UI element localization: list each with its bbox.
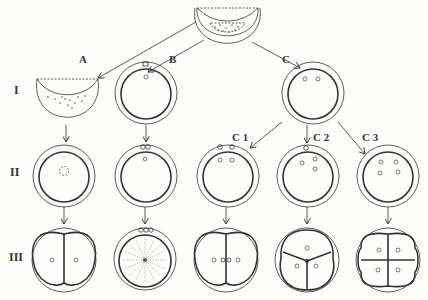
column-label-B: B (169, 53, 177, 65)
column-label-C1: C 1 (232, 131, 248, 143)
row-label-II: II (10, 165, 20, 179)
cell-A-III (32, 228, 96, 292)
cell-C3-III (356, 228, 420, 292)
cell-C1-II (197, 145, 259, 207)
embryo-development-diagram: I II III A B C C 1 C 2 C 3 (0, 0, 428, 300)
cell-C-I (282, 62, 344, 124)
granules-icon (214, 24, 239, 33)
cell-C3-II (357, 145, 419, 207)
diagram-stage: I II III A B C C 1 C 2 C 3 (0, 0, 428, 300)
row-label-III: III (9, 250, 23, 264)
column-label-C3: C 3 (362, 131, 379, 143)
cell-A-I (37, 79, 99, 117)
arrow-C-C1 (250, 122, 282, 148)
cell-C2-II (277, 145, 339, 207)
column-label-C: C (282, 53, 290, 65)
cell-A-II (33, 145, 95, 207)
column-label-C2: C 2 (313, 131, 330, 143)
cell-B-II (115, 145, 177, 207)
row-label-I: I (14, 83, 19, 97)
cell-C1-III (194, 228, 258, 292)
arrow-C-C3 (338, 122, 365, 154)
cell-B-I (115, 62, 177, 124)
cell-C2-III (275, 228, 339, 292)
cell-B-III (114, 228, 176, 290)
arrow-to-C (252, 42, 300, 68)
source-cell (195, 8, 261, 43)
column-label-A: A (79, 53, 87, 65)
